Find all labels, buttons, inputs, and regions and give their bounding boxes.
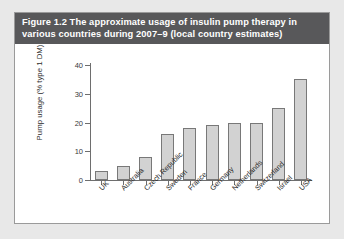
figure-container: Figure 1.2 The approximate usage of insu…	[14, 12, 330, 224]
figure-caption-line-2: various countries during 2007–9 (local c…	[22, 29, 323, 41]
bar	[294, 79, 307, 180]
y-axis-tick	[85, 123, 90, 124]
y-axis-tick	[85, 65, 90, 66]
y-axis-tick-label: 0	[31, 176, 83, 185]
bar	[95, 171, 108, 180]
y-axis-line	[90, 63, 91, 181]
y-axis-tick-label: 10	[31, 147, 83, 156]
figure-caption-line-1: Figure 1.2 The approximate usage of insu…	[22, 17, 323, 29]
y-axis-tick-label: 30	[31, 89, 83, 98]
figure-caption: Figure 1.2 The approximate usage of insu…	[15, 13, 329, 44]
y-axis-tick-label: 20	[31, 118, 83, 127]
y-axis-tick	[85, 180, 90, 181]
y-axis-tick	[85, 94, 90, 95]
y-axis-tick	[85, 151, 90, 152]
bar	[206, 125, 219, 180]
y-axis-tick-label: 40	[31, 61, 83, 70]
chart-plot-area: Pump usage (% type 1 DM) 010203040 UKAus…	[15, 46, 331, 224]
